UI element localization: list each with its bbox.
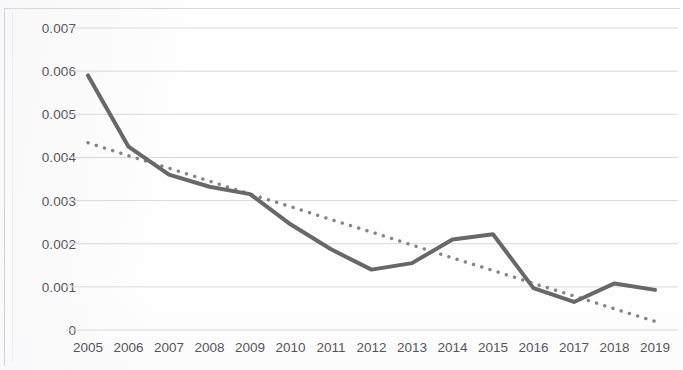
x-axis-tick-label: 2007 <box>154 340 184 355</box>
x-axis-tick-label: 2014 <box>437 340 467 355</box>
gridlines <box>66 28 678 330</box>
x-axis-tick-label: 2009 <box>235 340 265 355</box>
x-axis-tick-label: 2016 <box>518 340 548 355</box>
x-axis-tick-label: 2011 <box>316 340 345 355</box>
x-axis-tick-label: 2015 <box>478 340 508 355</box>
x-axis-tick-label: 2010 <box>275 340 305 355</box>
x-axis-tick-label: 2013 <box>397 340 427 355</box>
x-axis-tick-label: 2018 <box>599 340 629 355</box>
x-axis-tick-label: 2006 <box>113 340 143 355</box>
series-line <box>88 143 655 322</box>
x-axis-tick-label: 2017 <box>559 340 589 355</box>
plot-area <box>0 0 683 370</box>
series-line <box>88 75 655 302</box>
data-series-layer <box>88 75 655 321</box>
x-axis-tick-label: 2008 <box>194 340 224 355</box>
chart-container: 0.0070.0060.0050.0040.0030.0020.0010 200… <box>0 0 683 370</box>
x-axis-tick-label: 2012 <box>356 340 386 355</box>
x-axis-tick-label: 2005 <box>73 340 103 355</box>
x-axis-tick-label: 2019 <box>640 340 670 355</box>
